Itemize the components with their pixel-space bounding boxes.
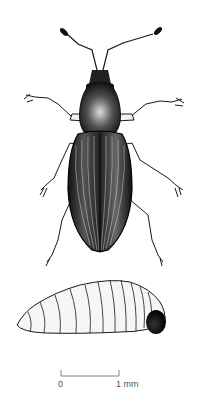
larva — [17, 280, 166, 334]
larva-body — [17, 281, 165, 334]
larva-head — [146, 310, 166, 334]
weevil-illustration: 0 1 mm — [0, 0, 200, 411]
adult-weevil — [24, 26, 184, 266]
scale-end-label: 1 mm — [116, 379, 139, 389]
antenna-club-left — [59, 27, 70, 38]
scale-bar — [61, 370, 119, 376]
pronotum — [80, 82, 121, 132]
antennae — [66, 33, 153, 70]
antenna-club-right — [153, 26, 164, 37]
scale-start-label: 0 — [58, 379, 63, 389]
